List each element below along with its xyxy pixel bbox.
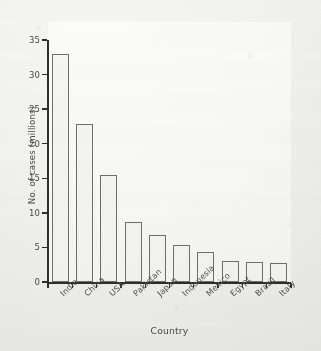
y-tick — [42, 281, 47, 282]
y-tick — [42, 212, 47, 213]
bar — [76, 124, 93, 282]
y-axis-line — [47, 40, 49, 283]
y-tick-label: 0 — [34, 277, 40, 287]
bar — [125, 222, 142, 282]
x-axis-title: Country — [48, 325, 291, 336]
y-axis-title: No. of cases (millions) — [27, 75, 37, 235]
y-tick — [42, 74, 47, 75]
bar — [100, 175, 117, 282]
y-tick-label: 5 — [34, 242, 40, 252]
bar — [173, 245, 190, 282]
y-tick — [42, 247, 47, 248]
bar-chart: 05101520253035 IndiaChinaUSAPakistanJapa… — [0, 0, 321, 351]
y-tick — [42, 39, 47, 40]
y-tick — [42, 143, 47, 144]
figure-page: 05101520253035 IndiaChinaUSAPakistanJapa… — [0, 0, 321, 351]
y-tick — [42, 108, 47, 109]
x-tick — [47, 283, 48, 288]
bar — [52, 54, 69, 282]
y-tick — [42, 178, 47, 179]
y-tick-label: 35 — [29, 35, 40, 45]
